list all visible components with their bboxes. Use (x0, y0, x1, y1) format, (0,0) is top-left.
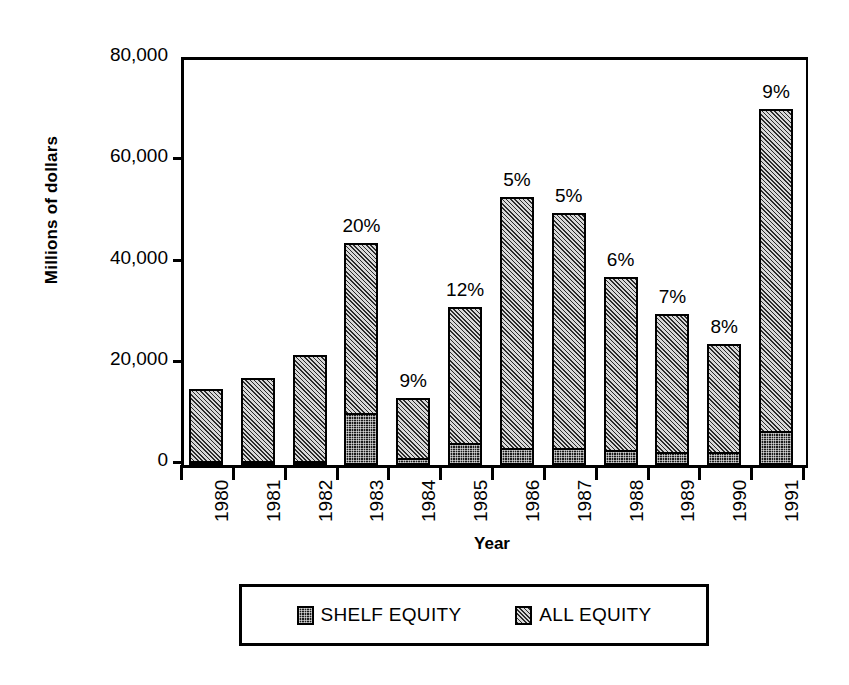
bar-segment-shelf-equity[interactable] (241, 461, 275, 465)
bar-segment-all-equity[interactable] (293, 355, 327, 465)
chart-figure: Millions of dollars 020,00040,00060,0008… (0, 0, 849, 685)
x-axis-tick-mark (595, 465, 598, 480)
x-axis-tick-label: 1991 (781, 480, 803, 522)
bar-segment-shelf-equity[interactable] (655, 452, 689, 465)
x-axis-tick-label: 1986 (522, 480, 544, 522)
x-axis-tick-label: 1985 (470, 480, 492, 522)
bar-percent-label: 5% (503, 169, 530, 191)
x-axis-tick-mark (647, 465, 650, 480)
bar-segment-all-equity[interactable] (604, 277, 638, 465)
bar-segment-all-equity[interactable] (189, 389, 223, 465)
x-axis-tick-mark (336, 465, 339, 480)
x-axis-title: Year (181, 534, 803, 554)
bar-segment-all-equity[interactable] (552, 213, 586, 465)
bar-segment-shelf-equity[interactable] (189, 461, 223, 465)
bar-group[interactable]: 12% (448, 60, 482, 465)
x-axis-tick-label: 1983 (366, 480, 388, 522)
bar-percent-label: 9% (762, 81, 789, 103)
bar-percent-label: 9% (400, 370, 427, 392)
x-axis-tick-mark (802, 465, 805, 480)
bar-group[interactable]: 5% (552, 60, 586, 465)
bar-segment-all-equity[interactable] (500, 197, 534, 465)
bar-group[interactable] (293, 60, 327, 465)
bar-percent-label: 5% (555, 185, 582, 207)
x-axis-tick-label: 1987 (574, 480, 596, 522)
bar-percent-label: 20% (342, 215, 380, 237)
bar-percent-label: 6% (607, 249, 634, 271)
legend-item[interactable]: SHELF EQUITY (297, 604, 462, 626)
plot-inner: 20%9%12%5%5%6%7%8%9% (184, 60, 806, 465)
legend-item[interactable]: ALL EQUITY (515, 604, 651, 626)
y-axis-title: Millions of dollars (42, 100, 62, 320)
x-axis-tick-label: 1989 (677, 480, 699, 522)
bar-group[interactable]: 7% (655, 60, 689, 465)
y-axis-tick-label: 20,000 (18, 348, 168, 370)
x-axis-tick-mark (750, 465, 753, 480)
bar-segment-shelf-equity[interactable] (759, 431, 793, 465)
x-axis-tick-mark (284, 465, 287, 480)
x-axis-tick-label: 1981 (263, 480, 285, 522)
bar-segment-all-equity[interactable] (707, 344, 741, 465)
bar-segment-shelf-equity[interactable] (344, 413, 378, 465)
x-axis-tick-mark (180, 465, 183, 480)
legend-label: ALL EQUITY (539, 604, 651, 626)
x-axis-tick-label: 1990 (729, 480, 751, 522)
x-axis-tick-mark (387, 465, 390, 480)
x-axis-tick-mark (491, 465, 494, 480)
bar-group[interactable]: 9% (396, 60, 430, 465)
legend-entries: SHELF EQUITYALL EQUITY (242, 587, 706, 643)
legend: SHELF EQUITYALL EQUITY (239, 584, 709, 646)
y-axis-tick-label: 0 (18, 449, 168, 471)
x-axis-tick-mark (232, 465, 235, 480)
legend-swatch-all (515, 606, 532, 625)
bar-group[interactable] (241, 60, 275, 465)
bar-segment-shelf-equity[interactable] (396, 458, 430, 465)
y-axis-tick-label: 40,000 (18, 247, 168, 269)
bar-percent-label: 7% (659, 286, 686, 308)
y-axis-tick-label: 80,000 (18, 44, 168, 66)
x-axis-tick-label: 1984 (418, 480, 440, 522)
bar-segment-shelf-equity[interactable] (448, 443, 482, 465)
bar-segment-shelf-equity[interactable] (707, 452, 741, 465)
x-axis-tick-label: 1982 (315, 480, 337, 522)
x-axis-tick-mark (698, 465, 701, 480)
bar-segment-all-equity[interactable] (396, 398, 430, 465)
x-axis-tick-label: 1988 (626, 480, 648, 522)
bar-percent-label: 8% (711, 316, 738, 338)
bar-segment-all-equity[interactable] (241, 378, 275, 465)
y-axis-tick-label: 60,000 (18, 145, 168, 167)
bar-segment-all-equity[interactable] (448, 307, 482, 465)
legend-label: SHELF EQUITY (321, 604, 462, 626)
bar-group[interactable]: 5% (500, 60, 534, 465)
bar-segment-all-equity[interactable] (655, 314, 689, 465)
x-axis-tick-mark (439, 465, 442, 480)
bar-group[interactable]: 20% (344, 60, 378, 465)
bar-group[interactable] (189, 60, 223, 465)
bar-group[interactable]: 6% (604, 60, 638, 465)
bar-percent-label: 12% (446, 279, 484, 301)
legend-swatch-shelf (297, 606, 314, 625)
bar-group[interactable]: 8% (707, 60, 741, 465)
plot-area: 20%9%12%5%5%6%7%8%9% (181, 57, 808, 468)
bar-group[interactable]: 9% (759, 60, 793, 465)
bar-segment-shelf-equity[interactable] (604, 450, 638, 465)
x-axis-tick-mark (543, 465, 546, 480)
bar-segment-shelf-equity[interactable] (293, 461, 327, 465)
bar-segment-shelf-equity[interactable] (500, 448, 534, 465)
bar-segment-shelf-equity[interactable] (552, 448, 586, 465)
x-axis-tick-label: 1980 (211, 480, 233, 522)
bar-segment-all-equity[interactable] (759, 109, 793, 465)
